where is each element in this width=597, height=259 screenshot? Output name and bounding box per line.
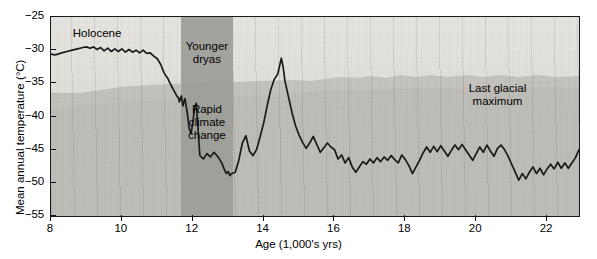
x-tick	[50, 215, 51, 221]
younger-dryas-label: Younger dryas	[180, 40, 234, 66]
x-tick-label: 22	[531, 222, 561, 234]
chart-figure: Holocene Younger dryas Rapid climate cha…	[0, 0, 597, 259]
x-tick-label: 20	[460, 222, 490, 234]
temperature-curve-layer	[51, 17, 579, 216]
x-tick	[475, 215, 476, 221]
y-tick	[50, 16, 56, 17]
last-glacial-maximum-label: Last glacial maximum	[458, 82, 536, 108]
x-tick	[333, 215, 334, 221]
y-tick-label: −25	[10, 9, 44, 21]
x-tick	[192, 215, 193, 221]
x-tick-label: 18	[389, 222, 419, 234]
x-tick	[263, 215, 264, 221]
x-tick-label: 10	[106, 222, 136, 234]
y-tick	[50, 49, 56, 50]
x-axis-title: Age (1,000's yrs)	[0, 238, 597, 250]
x-tick-label: 16	[318, 222, 348, 234]
y-tick	[50, 82, 56, 83]
x-tick-label: 14	[248, 222, 278, 234]
y-tick-label: −30	[10, 42, 44, 54]
y-tick	[50, 182, 56, 183]
temperature-curve	[51, 47, 579, 180]
x-tick	[546, 215, 547, 221]
holocene-label: Holocene	[62, 27, 132, 40]
x-tick	[121, 215, 122, 221]
x-tick-label: 8	[35, 222, 65, 234]
plot-area: Holocene Younger dryas Rapid climate cha…	[50, 16, 580, 217]
y-tick	[50, 149, 56, 150]
x-tick	[404, 215, 405, 221]
y-axis-title: Mean annual temperature (°C)	[14, 60, 26, 215]
x-tick-label: 12	[177, 222, 207, 234]
y-tick	[50, 116, 56, 117]
rapid-climate-change-label: Rapid climate change	[180, 103, 234, 142]
